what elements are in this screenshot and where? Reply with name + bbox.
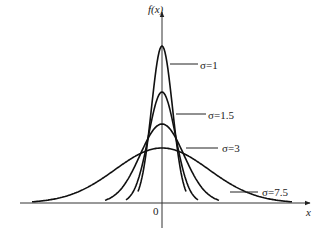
origin-label: 0 [153,206,159,217]
chart-plot [0,0,325,241]
chart-container: f(x) x 0 σ=1 σ=1.5 σ=3 σ=7.5 [0,0,325,241]
series-label-sigma-3: σ=3 [222,143,240,154]
y-axis-label: f(x) [148,4,163,15]
series-label-sigma-1-5: σ=1.5 [208,110,234,121]
series-label-sigma-1: σ=1 [200,60,218,71]
series-label-sigma-7-5: σ=7.5 [262,187,288,198]
x-axis-label: x [306,207,311,218]
